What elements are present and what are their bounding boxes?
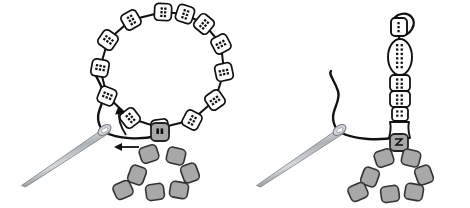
- hole-dot: [396, 53, 398, 55]
- gray-anchor-bead-right: [390, 134, 408, 151]
- hole-dot: [401, 115, 403, 117]
- hole-dot: [396, 44, 398, 46]
- hole-dot: [401, 62, 403, 64]
- gray-anchor-bead-left: [151, 123, 169, 141]
- hole-dot: [397, 22, 399, 24]
- hole-dot: [401, 94, 403, 96]
- hole-dot: [396, 94, 398, 96]
- hole-dot: [396, 66, 398, 68]
- square-bead-3: [390, 75, 410, 91]
- hole-dot: [396, 86, 398, 88]
- hole-dot: [401, 78, 403, 80]
- anchor-bead-body: [151, 123, 169, 141]
- hole-dot: [401, 48, 403, 50]
- elongated-oval-bead: [388, 39, 412, 75]
- bead: [154, 3, 172, 21]
- hole-dot: [401, 102, 403, 104]
- hole-dot: [401, 110, 403, 112]
- illustration-canvas: [0, 0, 470, 208]
- bead: [90, 58, 110, 78]
- hole-dot: [396, 83, 398, 85]
- hole-dot: [396, 78, 398, 80]
- top-bead-with-thread-loop: [391, 18, 407, 36]
- hole-dot: [396, 115, 398, 117]
- bead-body: [392, 107, 408, 121]
- seed-bead: [145, 183, 165, 201]
- seed-bead: [165, 146, 186, 166]
- beading-diagram-svg: [0, 0, 470, 208]
- hole-dot: [396, 102, 398, 104]
- hole-dot: [401, 83, 403, 85]
- bead-body: [390, 91, 410, 107]
- anchor-hole-dot: [156, 128, 159, 134]
- square-bead-4: [390, 91, 410, 107]
- hole-dot: [396, 110, 398, 112]
- hole-dot: [397, 30, 399, 32]
- hole-dot: [401, 53, 403, 55]
- hole-dot: [401, 66, 403, 68]
- hole-dot: [401, 44, 403, 46]
- anchor-hole-dot: [161, 128, 164, 134]
- seed-bead: [404, 183, 425, 202]
- hole-dot: [396, 57, 398, 59]
- seed-bead: [400, 148, 421, 168]
- seed-bead: [380, 185, 400, 203]
- bead: [214, 62, 234, 82]
- hole-dot: [401, 57, 403, 59]
- hole-dot: [401, 99, 403, 101]
- hole-dot: [396, 99, 398, 101]
- hole-dot: [396, 48, 398, 50]
- hole-dot: [397, 26, 399, 28]
- square-bead-5: [392, 107, 408, 121]
- hole-dot: [401, 86, 403, 88]
- seed-bead: [169, 181, 190, 200]
- hole-dot: [396, 62, 398, 64]
- oval-bead-body: [388, 39, 412, 75]
- bead-body: [390, 75, 410, 91]
